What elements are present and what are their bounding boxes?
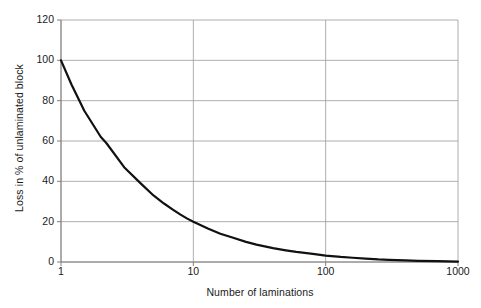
y-tick-label-wrap: 80 [26, 95, 54, 107]
y-axis-title: Loss in % of unlaminated block [8, 4, 30, 272]
x-tick-label-wrap: 100 [306, 266, 346, 280]
x-tick-label-wrap: 10 [173, 266, 213, 280]
y-tick-label-wrap: 100 [26, 54, 54, 66]
x-tick-label: 10 [173, 266, 213, 277]
series-line-loss [61, 60, 458, 261]
gridlines [61, 20, 458, 262]
y-tick-label: 60 [26, 135, 54, 146]
y-tick-label: 0 [26, 256, 54, 267]
chart-plot-area [0, 0, 481, 308]
y-tick-label: 120 [26, 14, 54, 25]
tick-marks [57, 20, 458, 266]
data-series-group [61, 60, 458, 261]
x-tick-label: 1000 [438, 266, 478, 277]
x-tick-label-wrap: 1000 [438, 266, 478, 280]
y-tick-label-wrap: 20 [26, 216, 54, 228]
y-tick-label: 20 [26, 216, 54, 227]
y-tick-label-wrap: 120 [26, 14, 54, 26]
x-axis-title: Number of laminations [61, 286, 459, 298]
y-tick-label: 100 [26, 54, 54, 65]
chart-container: 020406080100120 1101001000 Loss in % of … [0, 0, 481, 308]
x-tick-label-wrap: 1 [41, 266, 81, 280]
y-tick-label: 40 [26, 175, 54, 186]
x-tick-label: 100 [306, 266, 346, 277]
y-tick-label: 80 [26, 95, 54, 106]
y-tick-label-wrap: 40 [26, 175, 54, 187]
x-tick-label: 1 [41, 266, 81, 277]
y-tick-label-wrap: 60 [26, 135, 54, 147]
